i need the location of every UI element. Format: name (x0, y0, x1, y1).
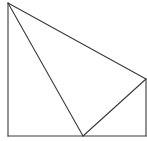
geometry-figure (0, 0, 147, 141)
inner-diagonal-left-line (8, 3, 83, 136)
top-diagonal-line (8, 3, 146, 79)
inner-diagonal-right-line (83, 79, 146, 136)
